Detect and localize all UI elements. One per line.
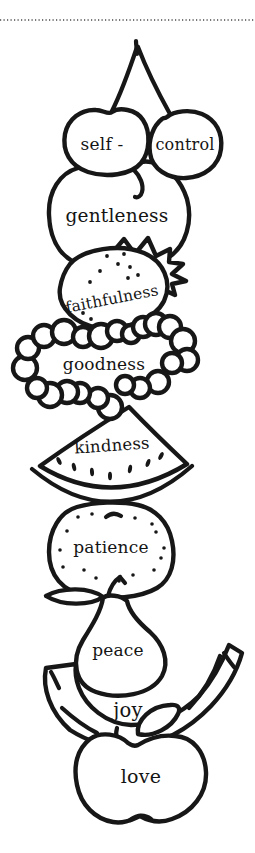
orange-label: patience bbox=[73, 537, 148, 557]
fruit-stack-illustration: gentleness self - control bbox=[0, 0, 255, 853]
banana-label: joy bbox=[111, 699, 142, 722]
cherry-stems bbox=[112, 41, 170, 114]
grapes-label: goodness bbox=[63, 354, 145, 374]
cherry-left-label: self - bbox=[81, 134, 124, 154]
watermelon-drawing: kindness bbox=[32, 407, 192, 502]
cherry-right-label: control bbox=[155, 135, 214, 154]
grapes-drawing: goodness bbox=[13, 313, 198, 419]
apple-gentleness-label: gentleness bbox=[66, 205, 169, 226]
apple-love-label: love bbox=[121, 765, 161, 787]
apple-bottom-dimple bbox=[130, 816, 151, 820]
pear-label: peace bbox=[92, 640, 144, 660]
cherries-drawing: self - control bbox=[64, 41, 221, 178]
illustration-page: gentleness self - control bbox=[0, 0, 255, 853]
pear-leaf bbox=[46, 589, 103, 603]
